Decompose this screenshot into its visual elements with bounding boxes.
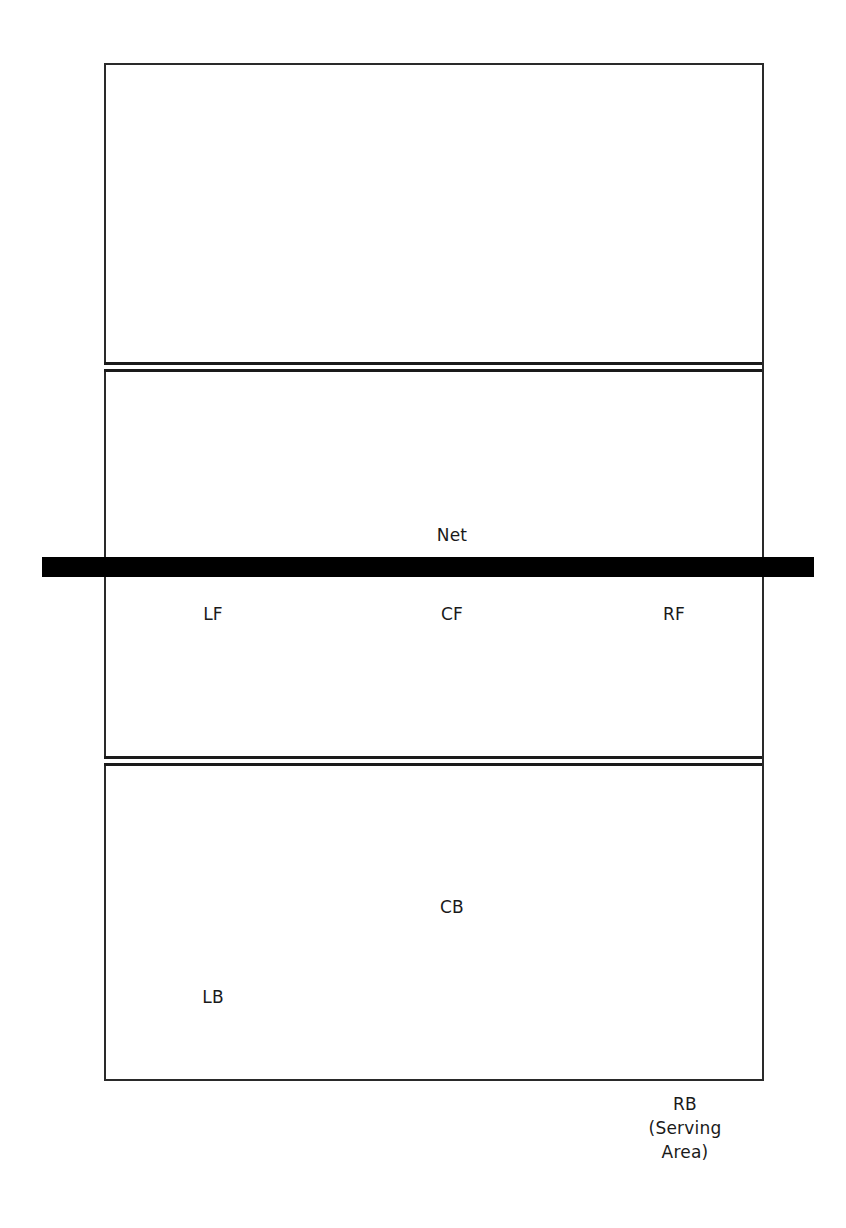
upper-attack-line: [104, 362, 762, 372]
lower-attack-line: [104, 756, 762, 766]
position-rb-serving-area-label: RB (Serving Area): [649, 1092, 722, 1164]
position-rf-label: RF: [663, 604, 685, 624]
position-lb-label: LB: [202, 987, 224, 1007]
net-label: Net: [437, 525, 467, 545]
position-cb-label: CB: [440, 897, 464, 917]
position-lf-label: LF: [203, 604, 223, 624]
position-cf-label: CF: [441, 604, 463, 624]
net-bar: [42, 557, 814, 577]
